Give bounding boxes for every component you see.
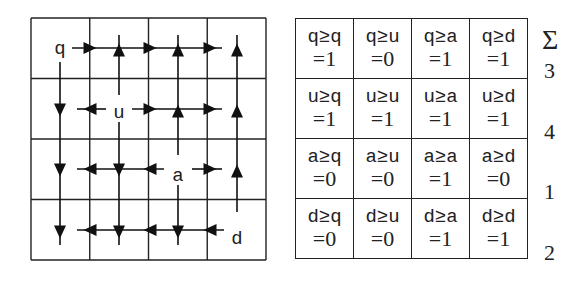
row-sum-a: 1 — [544, 179, 555, 205]
relation-expression: d≥d — [470, 207, 527, 227]
arrowhead-right-icon — [204, 163, 217, 175]
relation-value: =1 — [412, 167, 469, 191]
table-row: d≥q=0d≥u=0d≥a=1d≥d=1 — [296, 199, 528, 259]
arrowhead-down-icon — [54, 164, 66, 177]
arrowhead-down-icon — [113, 164, 125, 177]
relation-value: =1 — [412, 47, 469, 71]
arrowhead-up-icon — [172, 105, 184, 118]
arrowhead-right-icon — [144, 103, 157, 115]
relation-value: =1 — [470, 47, 527, 71]
relation-expression: d≥a — [412, 207, 469, 227]
table-row: a≥q=0a≥u=0a≥a=1a≥d=0 — [296, 139, 528, 199]
relation-expression: a≥q — [296, 147, 353, 167]
row-sum-q: 3 — [544, 58, 555, 84]
relation-cell: u≥u=1 — [354, 79, 412, 139]
relation-cell: d≥a=1 — [412, 199, 470, 259]
relation-cell: a≥d=0 — [470, 139, 528, 199]
relation-value: =1 — [412, 227, 469, 251]
relation-cell: u≥d=1 — [470, 79, 528, 139]
table-row: u≥q=1u≥u=1u≥a=1u≥d=1 — [296, 79, 528, 139]
relation-value: =1 — [412, 107, 469, 131]
arrowhead-left-icon — [144, 163, 157, 175]
relation-expression: a≥u — [354, 147, 411, 167]
relation-expression: q≥q — [296, 27, 353, 47]
relation-cell: a≥q=0 — [296, 139, 354, 199]
relation-expression: u≥u — [354, 87, 411, 107]
arrow-grid-diagram: quad — [0, 0, 290, 282]
arrowhead-right-icon — [204, 103, 217, 115]
relation-cell: u≥q=1 — [296, 79, 354, 139]
relation-cell: q≥a=1 — [412, 19, 470, 79]
relation-value: =1 — [354, 107, 411, 131]
arrowhead-up-icon — [231, 44, 243, 57]
node-label-q: q — [54, 38, 65, 60]
arrowhead-down-icon — [54, 226, 66, 239]
relation-value: =1 — [296, 47, 353, 71]
relation-value: =1 — [470, 107, 527, 131]
sigma-header: Σ — [542, 24, 558, 56]
relation-expression: q≥u — [354, 27, 411, 47]
arrowhead-left-icon — [144, 224, 157, 236]
arrowhead-down-icon — [113, 226, 125, 239]
relation-expression: q≥a — [412, 27, 469, 47]
table-row: q≥q=1q≥u=0q≥a=1q≥d=1 — [296, 19, 528, 79]
relation-expression: d≥q — [296, 207, 353, 227]
relation-cell: u≥a=1 — [412, 79, 470, 139]
arrowhead-up-icon — [231, 165, 243, 178]
relation-expression: a≥d — [470, 147, 527, 167]
relation-value: =0 — [354, 227, 411, 251]
relation-expression: a≥a — [412, 147, 469, 167]
relation-expression: q≥d — [470, 27, 527, 47]
node-label-u: u — [113, 102, 124, 124]
arrowhead-left-icon — [204, 224, 217, 236]
relation-cell: a≥u=0 — [354, 139, 412, 199]
relation-cell: q≥u=0 — [354, 19, 412, 79]
relation-cell: d≥q=0 — [296, 199, 354, 259]
relation-expression: d≥u — [354, 207, 411, 227]
relation-value: =0 — [354, 167, 411, 191]
relation-cell: a≥a=1 — [412, 139, 470, 199]
relation-cell: d≥u=0 — [354, 199, 412, 259]
arrowhead-right-icon — [144, 42, 157, 54]
arrowhead-right-icon — [204, 42, 217, 54]
relation-value: =0 — [296, 167, 353, 191]
relation-value: =1 — [296, 107, 353, 131]
node-label-d: d — [231, 228, 242, 250]
arrowhead-down-icon — [54, 104, 66, 117]
relation-expression: u≥d — [470, 87, 527, 107]
arrowhead-down-icon — [172, 226, 184, 239]
relation-value: =0 — [354, 47, 411, 71]
row-sum-d: 2 — [544, 240, 555, 266]
arrowhead-up-icon — [172, 44, 184, 57]
arrowhead-up-icon — [113, 44, 125, 57]
relation-value: =0 — [470, 167, 527, 191]
relation-cell: q≥d=1 — [470, 19, 528, 79]
relation-expression: u≥a — [412, 87, 469, 107]
relation-value: =1 — [470, 227, 527, 251]
relation-table: q≥q=1q≥u=0q≥a=1q≥d=1u≥q=1u≥u=1u≥a=1u≥d=1… — [295, 18, 528, 259]
relation-cell: d≥d=1 — [470, 199, 528, 259]
relation-expression: u≥q — [296, 87, 353, 107]
relation-cell: q≥q=1 — [296, 19, 354, 79]
arrowhead-up-icon — [231, 105, 243, 118]
node-label-a: a — [172, 165, 183, 187]
row-sum-u: 4 — [544, 119, 555, 145]
relation-value: =0 — [296, 227, 353, 251]
